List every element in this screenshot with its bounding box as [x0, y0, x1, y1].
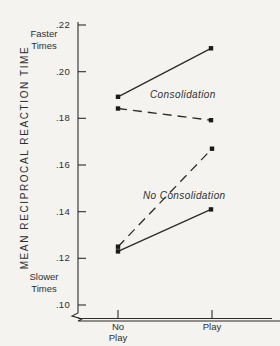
series-no-consolidation-solid [116, 207, 213, 253]
faster-times-note: Faster Times [18, 28, 70, 51]
data-point-marker [116, 249, 120, 253]
annotation-no-consolidation: No Consolidation [143, 190, 226, 201]
y-tick-label-010: .10 [44, 299, 70, 310]
y-tick-label-018: .18 [44, 112, 70, 123]
x-tick-label-play: Play [190, 321, 234, 332]
data-point-marker [209, 46, 213, 50]
data-point-marker [116, 245, 120, 249]
y-tick-marks [78, 25, 86, 305]
data-point-marker [210, 147, 214, 151]
slower-times-note: Slower Times [18, 271, 70, 294]
data-point-marker [209, 207, 213, 211]
data-point-marker [116, 106, 120, 110]
x-tick-label-no-play: No Play [96, 321, 140, 343]
data-point-marker [209, 118, 213, 122]
data-point-marker [116, 95, 120, 99]
y-tick-label-020: .20 [44, 66, 70, 77]
y-tick-label-016: .16 [44, 159, 70, 170]
series-consolidation-dashed [116, 106, 213, 122]
y-axis-title: MEAN RECIPROCAL REACTION TIME [19, 38, 30, 278]
y-tick-label-014: .14 [44, 206, 70, 217]
annotation-consolidation: Consolidation [150, 89, 216, 100]
y-tick-label-012: .12 [44, 252, 70, 263]
x-tick-marks [118, 310, 212, 319]
